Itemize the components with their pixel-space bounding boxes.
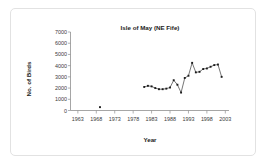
data-point-marker: [213, 64, 215, 66]
data-point-marker: [202, 68, 204, 70]
data-point-marker: [169, 87, 171, 89]
x-tick-label: 1963: [72, 116, 84, 122]
y-tick-label: 6000: [55, 40, 67, 46]
chart-title: Isle of May (NE Fife): [121, 24, 180, 31]
data-point-marker: [195, 71, 197, 73]
data-point-marker: [206, 68, 208, 70]
y-tick-label: 2000: [55, 85, 67, 91]
x-axis-tick-marks: [78, 111, 225, 114]
y-tick-label: 4000: [55, 63, 67, 69]
data-point-marker: [143, 86, 145, 88]
data-point-marker: [173, 79, 175, 81]
data-point-marker: [188, 75, 190, 77]
x-tick-label: 2003: [219, 116, 231, 122]
data-point-marker: [191, 62, 193, 64]
series-markers: [99, 62, 223, 108]
data-point-marker: [210, 66, 212, 68]
x-axis-tick-labels: 196319681973197819831988199319982003: [72, 116, 231, 122]
x-tick-label: 1968: [90, 116, 102, 122]
y-tick-label: 5000: [55, 51, 67, 57]
data-point-marker: [162, 88, 164, 90]
x-tick-label: 1983: [146, 116, 158, 122]
x-tick-label: 1998: [201, 116, 213, 122]
data-point-marker: [221, 76, 223, 78]
x-tick-label: 1978: [127, 116, 139, 122]
data-point-marker: [147, 85, 149, 87]
bird-count-line-chart: Isle of May (NE Fife) No. of Birds Year …: [0, 0, 268, 166]
data-point-marker: [154, 87, 156, 89]
y-axis-title: No. of Birds: [25, 61, 32, 97]
y-axis-tick-labels: 01000200030004000500060007000: [55, 29, 67, 114]
y-tick-label: 1000: [55, 96, 67, 102]
data-point-marker: [99, 106, 101, 108]
data-point-marker: [158, 88, 160, 90]
data-point-marker: [184, 77, 186, 79]
y-tick-label: 3000: [55, 74, 67, 80]
y-tick-label: 7000: [55, 29, 67, 35]
x-tick-label: 1988: [164, 116, 176, 122]
data-point-marker: [180, 92, 182, 94]
data-point-marker: [217, 64, 219, 66]
data-point-marker: [165, 88, 167, 90]
data-point-marker: [151, 85, 153, 87]
y-tick-label: 0: [64, 108, 67, 114]
x-tick-label: 1993: [182, 116, 194, 122]
x-tick-label: 1973: [109, 116, 121, 122]
data-point-marker: [176, 84, 178, 86]
data-point-marker: [199, 71, 201, 73]
x-axis-title: Year: [143, 136, 157, 143]
